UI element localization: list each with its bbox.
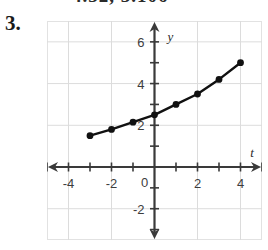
problem-number: 3. — [5, 13, 21, 34]
y-axis-label: y — [166, 29, 174, 44]
x-tick-label: 2 — [194, 176, 201, 191]
data-point — [173, 101, 180, 108]
data-point — [194, 91, 201, 98]
y-tick-label: 4 — [137, 77, 144, 92]
x-tick-label: 4 — [237, 176, 244, 191]
x-tick-label: -4 — [63, 176, 75, 191]
y-tick-label: 6 — [137, 35, 144, 50]
data-point — [237, 59, 244, 66]
x-axis-label: t — [250, 145, 254, 160]
data-point — [216, 76, 223, 83]
origin-label: 0 — [141, 175, 148, 190]
data-point — [130, 119, 137, 126]
data-point — [151, 111, 158, 118]
clipped-header-text: 4.32, 3.106 — [72, 0, 169, 7]
data-point — [87, 132, 94, 139]
clipped-header-strip: 4.32, 3.106 — [0, 0, 268, 12]
x-tick-label: -2 — [106, 176, 118, 191]
data-point — [108, 126, 115, 133]
y-tick-label: -2 — [133, 202, 145, 217]
graph-figure: -4-224642-20 ty — [47, 21, 262, 240]
coordinate-plane: -4-224642-20 ty — [47, 21, 262, 240]
